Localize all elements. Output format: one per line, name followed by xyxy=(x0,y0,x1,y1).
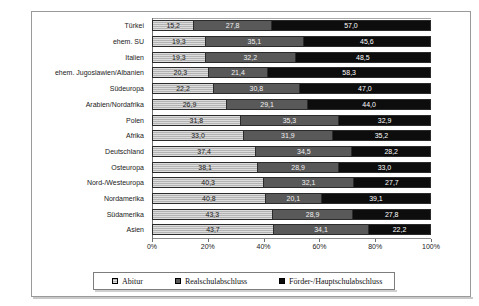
bar-segment: 26,9 xyxy=(152,99,227,110)
stacked-bar: 15,227,857,0 xyxy=(152,20,431,31)
bar-row: 20,321,458,3 xyxy=(152,65,431,81)
bar-segment: 33,0 xyxy=(152,130,244,141)
bar-value-label: 22,2 xyxy=(176,85,190,92)
stacked-bar: 37,434,528,2 xyxy=(152,146,431,157)
stacked-bar: 38,128,933,0 xyxy=(152,162,431,173)
bar-segment: 15,2 xyxy=(152,20,194,31)
bar-row: 26,929,144,0 xyxy=(152,97,431,113)
bar-row: 43,734,122,2 xyxy=(152,222,431,238)
category-label: Italien xyxy=(36,49,148,65)
bar-value-label: 31,9 xyxy=(281,132,295,139)
bar-value-label: 27,8 xyxy=(226,22,240,29)
category-label: Deutschland xyxy=(36,144,148,160)
bar-segment: 35,2 xyxy=(333,130,431,141)
bar-value-label: 40,3 xyxy=(201,179,215,186)
bar-row: 31,835,332,9 xyxy=(152,112,431,128)
bar-value-label: 38,1 xyxy=(198,164,212,171)
bar-value-label: 32,1 xyxy=(302,179,316,186)
bar-segment: 34,5 xyxy=(256,146,352,157)
x-axis-tick-label: 0% xyxy=(147,243,157,250)
bar-segment: 20,1 xyxy=(266,193,322,204)
stacked-bar: 19,335,145,6 xyxy=(152,36,431,47)
x-axis-tick xyxy=(152,239,153,242)
stacked-bar: 40,332,127,7 xyxy=(152,177,431,188)
bar-value-label: 33,0 xyxy=(378,164,392,171)
x-axis-tick-labels: 0%20%40%60%80%100% xyxy=(152,243,431,255)
bar-segment: 43,7 xyxy=(152,224,274,235)
category-label: ehem. SU xyxy=(36,34,148,50)
category-label: Arabien/Nordafrika xyxy=(36,97,148,113)
bar-segment: 28,9 xyxy=(273,209,354,220)
bar-segment: 28,2 xyxy=(352,146,431,157)
legend-label: Abitur xyxy=(122,277,143,286)
x-axis-tick xyxy=(319,239,320,242)
bar-value-label: 48,5 xyxy=(356,54,370,61)
category-label: Afrika xyxy=(36,128,148,144)
category-label: Südamerika xyxy=(36,206,148,222)
bar-value-label: 28,2 xyxy=(384,148,398,155)
legend-item[interactable]: Realschulabschluss xyxy=(175,277,247,286)
chart-legend: AbiturRealschulabschlussFörder-/Hauptsch… xyxy=(93,272,395,290)
bar-value-label: 28,9 xyxy=(306,211,320,218)
legend-item[interactable]: Förder-/Hauptschulabschluss xyxy=(279,277,382,286)
bar-rows: 15,227,857,019,335,145,619,332,248,520,3… xyxy=(152,18,431,238)
x-axis-tick xyxy=(264,239,265,242)
bar-row: 43,328,927,8 xyxy=(152,206,431,222)
bar-value-label: 35,2 xyxy=(375,132,389,139)
category-label: Türkei xyxy=(36,18,148,34)
bar-value-label: 40,8 xyxy=(202,195,216,202)
bar-value-label: 19,3 xyxy=(172,54,186,61)
bar-segment: 43,3 xyxy=(152,209,273,220)
x-axis-tick xyxy=(431,239,432,242)
bar-value-label: 34,1 xyxy=(314,226,328,233)
x-axis-tick xyxy=(375,239,376,242)
bar-segment: 32,1 xyxy=(264,177,353,188)
stacked-bar: 19,332,248,5 xyxy=(152,52,431,63)
legend-label: Förder-/Hauptschulabschluss xyxy=(289,277,382,286)
bar-row: 40,332,127,7 xyxy=(152,175,431,191)
bar-segment: 48,5 xyxy=(296,52,431,63)
category-label: Polen xyxy=(36,112,148,128)
legend-item[interactable]: Abitur xyxy=(112,277,143,286)
stacked-bar: 33,031,935,2 xyxy=(152,130,431,141)
bar-value-label: 27,8 xyxy=(385,211,399,218)
bar-value-label: 29,1 xyxy=(260,101,274,108)
bar-segment: 34,1 xyxy=(274,224,369,235)
legend-swatch-icon xyxy=(279,278,285,284)
bar-value-label: 35,3 xyxy=(283,117,297,124)
bar-value-label: 57,0 xyxy=(344,22,358,29)
bar-segment: 32,9 xyxy=(339,115,431,126)
chart-container: Türkeiehem. SUItalienehem. Jugoslawien/A… xyxy=(0,0,479,306)
x-axis-tick-label: 100% xyxy=(422,243,440,250)
bar-value-label: 30,8 xyxy=(250,85,264,92)
bar-value-label: 28,9 xyxy=(291,164,305,171)
chart-legend-shadow xyxy=(95,290,397,292)
bar-segment: 19,3 xyxy=(152,52,206,63)
legend-swatch-icon xyxy=(175,278,181,284)
bar-segment: 35,1 xyxy=(206,36,304,47)
bar-value-label: 32,9 xyxy=(378,117,392,124)
bar-row: 37,434,528,2 xyxy=(152,144,431,160)
legend-swatch-icon xyxy=(112,278,118,284)
bar-value-label: 35,1 xyxy=(247,38,261,45)
stacked-bar: 43,328,927,8 xyxy=(152,209,431,220)
category-label: Osteuropa xyxy=(36,159,148,175)
bar-segment: 22,2 xyxy=(152,83,214,94)
bar-segment: 27,8 xyxy=(353,209,431,220)
bar-segment: 40,3 xyxy=(152,177,264,188)
bar-value-label: 58,3 xyxy=(342,69,356,76)
stacked-bar: 40,820,139,1 xyxy=(152,193,431,204)
legend-label: Realschulabschluss xyxy=(185,277,247,286)
bar-row: 38,128,933,0 xyxy=(152,159,431,175)
category-label: Nord-/Westeuropa xyxy=(36,175,148,191)
stacked-bar: 26,929,144,0 xyxy=(152,99,431,110)
bar-segment: 19,3 xyxy=(152,36,206,47)
bar-segment: 20,3 xyxy=(152,67,209,78)
bar-segment: 58,3 xyxy=(268,67,431,78)
bar-value-label: 37,4 xyxy=(197,148,211,155)
bar-row: 15,227,857,0 xyxy=(152,18,431,34)
bar-value-label: 33,0 xyxy=(191,132,205,139)
bar-segment: 45,6 xyxy=(304,36,431,47)
bar-row: 19,332,248,5 xyxy=(152,49,431,65)
bar-segment: 39,1 xyxy=(322,193,431,204)
